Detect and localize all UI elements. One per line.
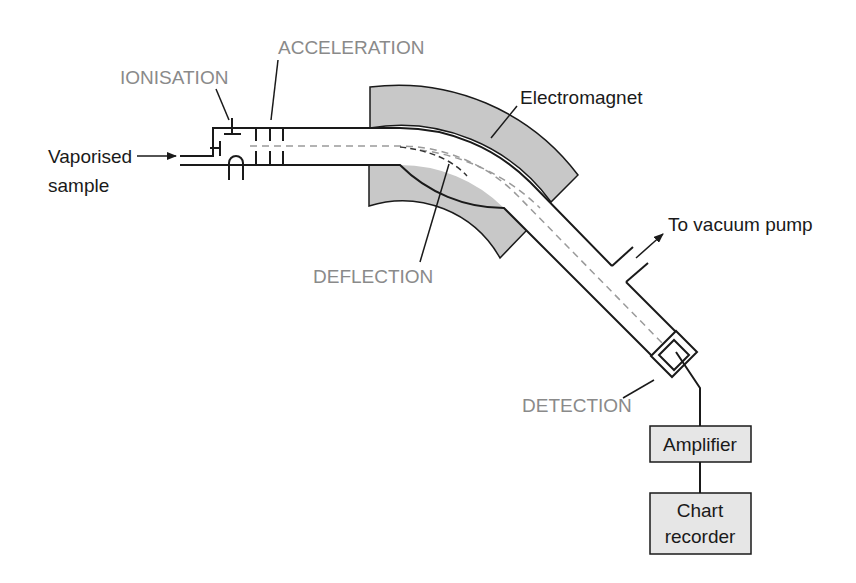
detection-label: DETECTION xyxy=(522,395,632,416)
inlet-label-line1: Vaporised xyxy=(48,146,132,167)
amplifier-label: Amplifier xyxy=(663,434,738,455)
mass-spectrometer-diagram: Amplifier Chart recorder Vaporised sampl… xyxy=(0,0,856,583)
chart-recorder-label-line1: Chart xyxy=(677,500,724,521)
detection-leader-line xyxy=(623,380,654,398)
vacuum-pump-label: To vacuum pump xyxy=(668,214,813,235)
acceleration-label: ACCELERATION xyxy=(278,37,424,58)
inlet-label-line2: sample xyxy=(48,175,109,196)
deflection-label: DEFLECTION xyxy=(313,266,433,287)
ionisation-label: IONISATION xyxy=(120,67,228,88)
signal-wiring xyxy=(676,352,700,493)
vacuum-pump-arrow-icon xyxy=(636,234,663,258)
ionisation-leader-line xyxy=(216,89,229,120)
electromagnet-label: Electromagnet xyxy=(520,87,643,108)
acceleration-leader-line xyxy=(271,60,278,120)
chart-recorder-label-line2: recorder xyxy=(665,526,736,547)
